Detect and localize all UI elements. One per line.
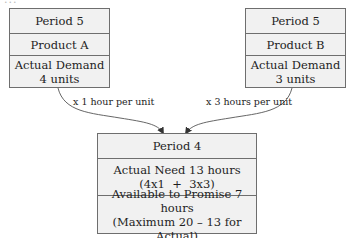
- demand-label: Actual Demand: [10, 58, 109, 72]
- node-period: Period 4: [98, 134, 256, 159]
- period-label: Period 5: [10, 14, 109, 28]
- edge-label-product-a: x 1 hour per unit: [73, 96, 154, 107]
- atp-formula: (Maximum 20 – 13 for Actual): [98, 215, 256, 239]
- node-product: Product B: [246, 34, 345, 56]
- atp-label: Available to Promise 7 hours: [98, 187, 256, 215]
- arrow-product-a-to-period-4: [58, 88, 163, 133]
- period-label: Period 5: [246, 14, 345, 28]
- node-available-to-promise: Available to Promise 7 hours (Maximum 20…: [98, 196, 256, 233]
- demand-label: Actual Demand: [246, 58, 345, 72]
- node-product: Product A: [10, 34, 109, 56]
- product-label: Product A: [10, 38, 109, 52]
- node-period-4: Period 4 Actual Need 13 hours (4x1 + 3x3…: [97, 133, 257, 234]
- node-period: Period 5: [246, 9, 345, 34]
- node-product-a: Period 5 Product A Actual Demand 4 units: [9, 8, 110, 88]
- node-period: Period 5: [10, 9, 109, 34]
- node-product-b: Period 5 Product B Actual Demand 3 units: [245, 8, 346, 88]
- product-label: Product B: [246, 38, 345, 52]
- need-label: Actual Need 13 hours: [98, 163, 256, 177]
- edge-label-product-b: x 3 hours per unit: [206, 96, 292, 107]
- arrow-product-b-to-period-4: [186, 88, 292, 133]
- demand-value: 4 units: [10, 72, 109, 86]
- node-demand: Actual Demand 4 units: [10, 56, 109, 87]
- node-demand: Actual Demand 3 units: [246, 56, 345, 87]
- period-label: Period 4: [98, 139, 256, 153]
- demand-value: 3 units: [246, 72, 345, 86]
